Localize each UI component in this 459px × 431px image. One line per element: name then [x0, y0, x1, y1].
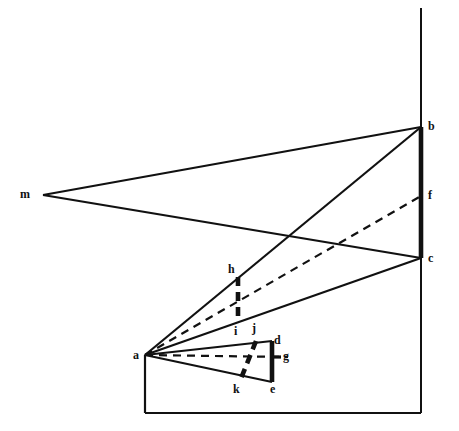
- segment-a-to-g-dashed: [145, 355, 288, 357]
- point-label-h: h: [228, 263, 235, 275]
- segment-j-to-k-thick-dashed: [240, 341, 256, 381]
- point-label-k: k: [233, 383, 240, 395]
- point-label-g: g: [283, 350, 289, 362]
- segment-a-to-b: [145, 127, 421, 355]
- point-label-f: f: [428, 189, 432, 201]
- segment-layer: [43, 8, 421, 413]
- point-label-a: a: [133, 349, 139, 361]
- point-label-j: j: [252, 322, 256, 334]
- point-label-e: e: [270, 383, 275, 395]
- diagram-canvas: [0, 0, 459, 431]
- segment-a-to-e: [145, 355, 272, 382]
- point-label-b: b: [428, 120, 435, 132]
- segment-m-to-b: [43, 127, 421, 195]
- geometry-diagram: mbfchijdgake: [0, 0, 459, 431]
- point-label-i: i: [234, 325, 237, 337]
- segment-m-to-c: [43, 195, 421, 258]
- point-label-d: d: [274, 334, 281, 346]
- point-label-m: m: [20, 188, 30, 200]
- segment-a-to-c: [145, 258, 421, 355]
- point-label-c: c: [428, 252, 433, 264]
